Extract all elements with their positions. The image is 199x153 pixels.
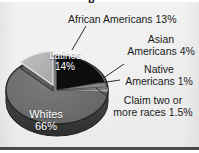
- callout-native-americans: Native Americans 1%: [122, 63, 196, 87]
- callout-african-americans-text: African Americans 13%: [68, 13, 177, 25]
- callout-african-americans: African Americans 13%: [68, 13, 177, 25]
- callout-claim-line2: more races 1.5%: [109, 106, 197, 118]
- slice-label-whites-value: 66%: [16, 120, 76, 132]
- callout-asian-americans-line1: Asian: [126, 33, 196, 45]
- slice-label-latinos-value: 14%: [41, 61, 89, 72]
- clipped-title-fragment: p: [88, 0, 114, 3]
- slice-label-whites: Whites 66%: [16, 108, 76, 132]
- slice-label-latinos-name: Latinos: [41, 50, 89, 61]
- pie-chart-screenshot: p: [0, 0, 199, 153]
- slice-label-whites-name: Whites: [16, 108, 76, 120]
- callout-asian-americans: Asian Americans 4%: [126, 33, 196, 57]
- callout-asian-americans-line2: Americans 4%: [126, 45, 196, 57]
- slice-label-latinos: Latinos 14%: [41, 50, 89, 72]
- pie-graphic: Whites 66% Latinos 14%: [2, 20, 114, 140]
- callout-claim-line1: Claim two or: [109, 94, 197, 106]
- callout-native-americans-line1: Native: [122, 63, 196, 75]
- callout-claim-two-or-more-races: Claim two or more races 1.5%: [109, 94, 197, 118]
- callout-native-americans-line2: Americans 1%: [122, 75, 196, 87]
- chart-panel: p: [0, 2, 199, 150]
